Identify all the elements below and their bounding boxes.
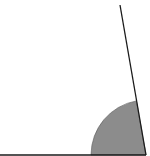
angle-diagram [0,0,150,156]
